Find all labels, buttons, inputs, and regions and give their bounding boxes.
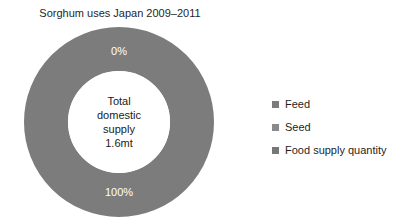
legend-swatch-icon (272, 124, 279, 131)
chart-title: Sorghum uses Japan 2009–2011 (0, 6, 240, 20)
chart-legend: Feed Seed Food supply quantity (272, 93, 387, 162)
legend-swatch-icon (272, 101, 279, 108)
legend-label: Feed (285, 98, 310, 111)
slice-label-hundred-percent: 100% (24, 186, 214, 199)
legend-item-feed[interactable]: Feed (272, 93, 387, 116)
donut-hole (68, 71, 170, 173)
legend-swatch-icon (272, 147, 279, 154)
legend-item-seed[interactable]: Seed (272, 116, 387, 139)
slice-label-zero-percent: 0% (24, 45, 214, 58)
legend-item-food-supply-quantity[interactable]: Food supply quantity (272, 139, 387, 162)
donut-chart: 0% 100% Total domestic supply 1.6mt (24, 27, 214, 217)
legend-label: Seed (285, 121, 311, 134)
legend-label: Food supply quantity (285, 144, 387, 157)
